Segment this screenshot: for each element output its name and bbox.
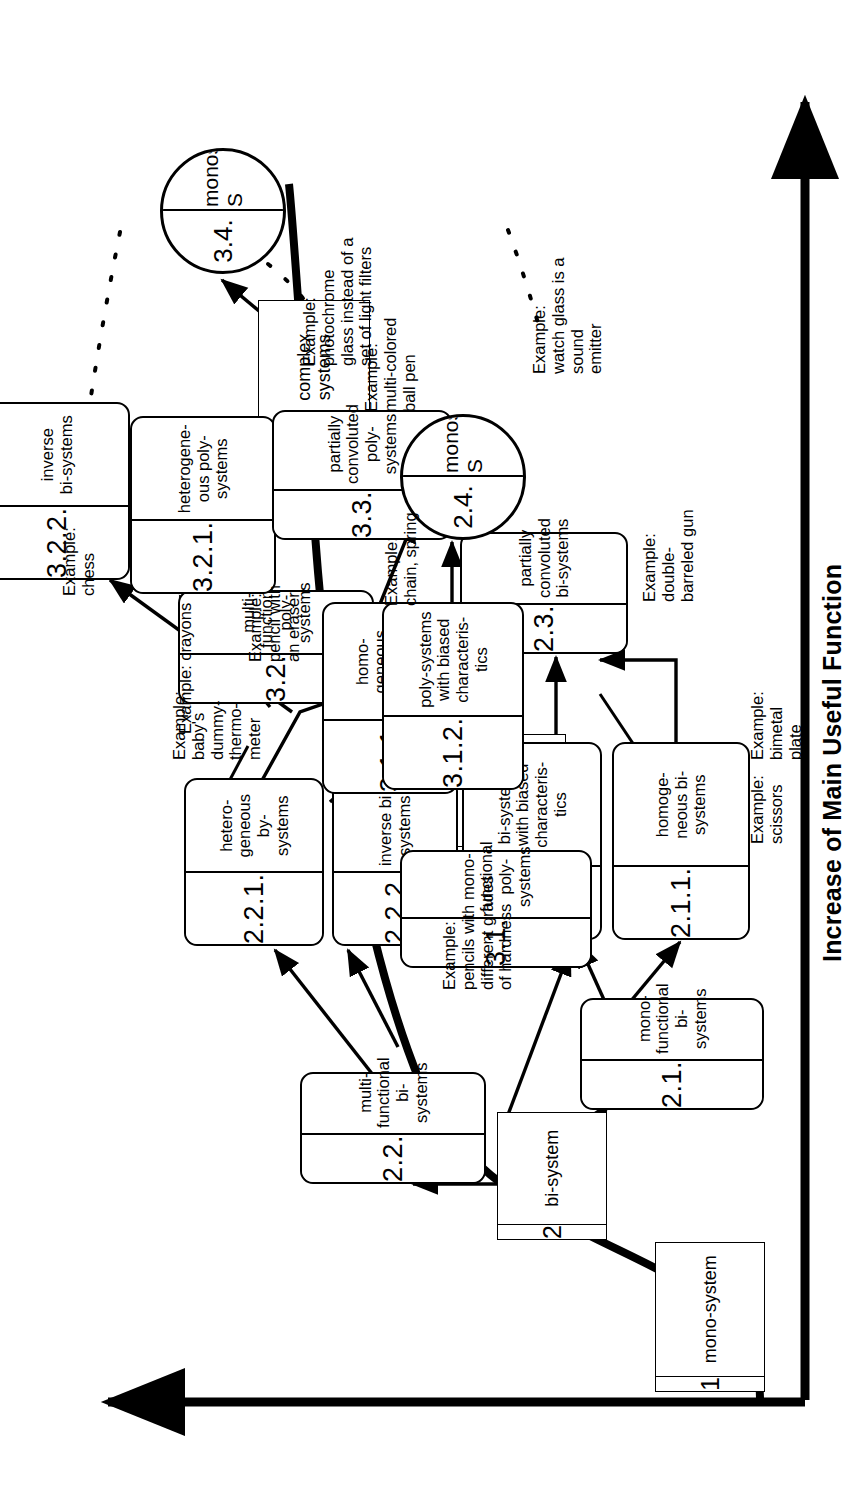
node-2-1-1[interactable]: 2.1.1. homoge- neous bi- systems [612,742,750,940]
stage-num-2: 2 [498,1224,606,1239]
note-chain: Example: chain, spring [382,436,420,606]
node-2-1-num: 2.1. [582,1059,762,1108]
stage-label-2: bi-system [498,1113,606,1224]
axis-title: Increase of Main Useful Function [818,564,847,962]
stage-box-mono-system[interactable]: 1 mono-system [655,1242,765,1392]
node-2-1-label: mono- functional bi-systems [582,978,762,1059]
diagram-canvas: 1 mono-system 2 bi-system 3 poly-system … [0,0,852,1502]
stage-num-1: 1 [656,1376,764,1391]
circle-3-4[interactable]: 3.4. monos-S [160,148,286,274]
arrow-2-1-1-to-2-3 [600,660,676,742]
node-2-1[interactable]: 2.1. mono- functional bi-systems [580,998,764,1110]
node-2-1-1-num: 2.1.1. [614,865,748,938]
node-2-2-1-num: 2.2.1. [186,871,322,944]
note-chess: Example: chess [60,446,98,596]
stage-label-1: mono-system [656,1243,764,1376]
note-watchglass: Example: watch glass is a sound emitter [530,154,605,374]
node-2-2-num: 2.2. [302,1133,484,1182]
note-hardness: Example: pencils with different grades o… [440,760,515,990]
note-photochrome: Example: photochrome glass instead of a … [300,116,375,366]
diagram-page: 1 mono-system 2 bi-system 3 poly-system … [0,0,852,1502]
note-gun: Example: double- barreled gun [640,422,696,602]
node-2-2-label: multi- functional bi-systems [302,1052,484,1133]
node-2-2[interactable]: 2.2. multi- functional bi-systems [300,1072,486,1184]
note-pencil: Example: pencil with an eraser [246,502,302,662]
note-bimetal: Example: bimetal plate [748,610,804,760]
note-crayons: Example: crayons [176,524,195,734]
stage-box-bi-system[interactable]: 2 bi-system [497,1112,607,1240]
node-2-2-1-label: hetero- geneous by-systems [186,780,322,871]
node-3-1-2-label: poly-systems with biased characteris- ti… [384,604,522,715]
node-2-1-1-label: homoge- neous bi- systems [614,744,748,865]
node-2-2-1[interactable]: 2.2.1. hetero- geneous by-systems [184,778,324,946]
